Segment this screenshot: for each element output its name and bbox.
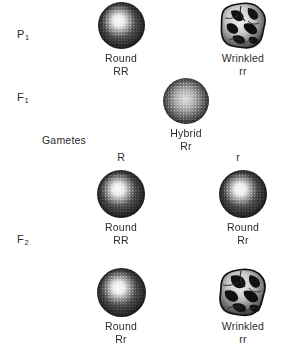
genetics-cross-diagram: P1 F1 F2 Gametes Round RR	[0, 0, 285, 354]
seed-genotype: RR	[81, 234, 161, 247]
seed-caption: Hybrid Rr	[146, 127, 226, 153]
seed-phenotype: Round	[105, 221, 137, 233]
seed-f2-round-rr-het-1: Round Rr	[203, 170, 283, 247]
generation-label-p1-subscript: 1	[25, 33, 30, 42]
seed-caption: Wrinkled rr	[203, 52, 283, 78]
seed-caption: Wrinkled rr	[203, 320, 283, 346]
round-pea-icon	[146, 78, 226, 124]
seed-f1-hybrid: Hybrid Rr	[146, 78, 226, 153]
seed-f2-wrinkled: Wrinkled rr	[203, 268, 283, 346]
generation-label-f1-text: F	[17, 91, 24, 103]
seed-genotype: Rr	[146, 140, 226, 153]
generation-label-f2: F2	[17, 233, 29, 247]
wrinkled-pea-icon	[203, 2, 283, 49]
seed-phenotype: Round	[227, 221, 259, 233]
seed-p1-round: Round RR	[81, 2, 161, 78]
generation-label-f1: F1	[17, 91, 29, 105]
seed-genotype: Rr	[203, 234, 283, 247]
gamete-letter-r: r	[236, 151, 240, 163]
seed-genotype: rr	[203, 333, 283, 346]
gametes-label: Gametes	[42, 134, 86, 146]
seed-caption: Round Rr	[81, 320, 161, 346]
round-pea-icon	[81, 2, 161, 49]
seed-genotype: RR	[81, 65, 161, 78]
seed-phenotype: Hybrid	[170, 127, 202, 139]
generation-label-f2-text: F	[17, 233, 24, 245]
seed-caption: Round Rr	[203, 221, 283, 247]
seed-genotype: Rr	[81, 333, 161, 346]
seed-caption: Round RR	[81, 52, 161, 78]
seed-f2-round-rr: Round RR	[81, 170, 161, 247]
generation-label-p1: P1	[17, 28, 29, 42]
round-pea-icon	[203, 170, 283, 218]
round-pea-icon	[81, 268, 161, 317]
seed-f2-round-rr-het-2: Round Rr	[81, 268, 161, 346]
round-pea-icon	[81, 170, 161, 218]
generation-label-p1-text: P	[17, 28, 25, 40]
seed-p1-wrinkled: Wrinkled rr	[203, 2, 283, 78]
seed-phenotype: Round	[105, 52, 137, 64]
seed-phenotype: Wrinkled	[222, 320, 264, 332]
seed-genotype: rr	[203, 65, 283, 78]
generation-label-f2-subscript: 2	[24, 238, 29, 247]
generation-label-f1-subscript: 1	[24, 96, 29, 105]
seed-phenotype: Wrinkled	[222, 52, 264, 64]
seed-phenotype: Round	[105, 320, 137, 332]
wrinkled-pea-icon	[203, 268, 283, 317]
gamete-letter-R: R	[117, 151, 125, 163]
seed-caption: Round RR	[81, 221, 161, 247]
